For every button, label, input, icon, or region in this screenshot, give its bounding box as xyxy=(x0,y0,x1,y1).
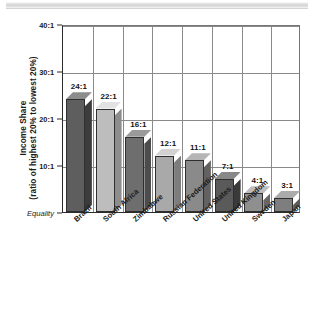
bar-value-label: 12:1 xyxy=(160,139,176,148)
y-gridline xyxy=(63,73,299,74)
y-axis-title: Income Share (ratio of highest 20% to lo… xyxy=(19,33,49,223)
bar-top xyxy=(66,92,92,99)
y-axis-title-line2: (ratio of highest 20% to lowest 20%) xyxy=(29,33,39,223)
bar-value-label: 7:1 xyxy=(222,162,234,171)
bar-value-label: 3:1 xyxy=(281,181,293,190)
y-tick-label: 30:1 xyxy=(10,68,54,77)
x-gridline xyxy=(93,26,94,212)
bar-value-label: 16:1 xyxy=(130,120,146,129)
y-axis-title-line1: Income Share xyxy=(19,33,29,223)
bar-top xyxy=(274,191,300,198)
bar-side xyxy=(115,109,122,212)
bar-value-label: 22:1 xyxy=(101,92,117,101)
y-tick-label: Equality xyxy=(10,209,54,218)
x-gridline xyxy=(182,26,183,212)
y-tick-label: 20:1 xyxy=(10,115,54,124)
bar-top xyxy=(185,153,211,160)
bar-brazil: 24:1 xyxy=(66,99,85,212)
x-gridline xyxy=(271,26,272,212)
y-tick-label: 10:1 xyxy=(10,162,54,171)
bar-face xyxy=(66,99,85,212)
bar-value-label: 11:1 xyxy=(190,143,206,152)
y-tick-mark xyxy=(57,72,62,73)
bar-side xyxy=(85,99,92,212)
x-gridline xyxy=(123,26,124,212)
y-tick-label: 40:1 xyxy=(10,21,54,30)
y-tick-mark xyxy=(57,213,62,214)
x-gridline xyxy=(212,26,213,212)
bar-top xyxy=(96,102,122,109)
x-gridline xyxy=(152,26,153,212)
y-tick-mark xyxy=(57,119,62,120)
bar-top xyxy=(155,149,181,156)
x-gridline xyxy=(242,26,243,212)
bar-value-label: 24:1 xyxy=(71,82,87,91)
income-share-bar-chart: Income Share (ratio of highest 20% to lo… xyxy=(0,0,313,316)
y-gridline xyxy=(63,26,299,27)
bar-face xyxy=(96,109,115,212)
y-tick-mark xyxy=(57,25,62,26)
y-tick-mark xyxy=(57,166,62,167)
bar-top xyxy=(125,130,151,137)
bar-south-africa: 22:1 xyxy=(96,109,115,212)
